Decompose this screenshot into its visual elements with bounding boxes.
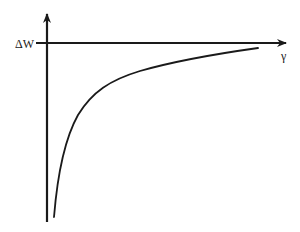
gamma-axis-label: γ bbox=[281, 50, 286, 62]
asymptotic-curve bbox=[54, 48, 258, 217]
delta-w-label: ΔW bbox=[15, 38, 34, 50]
diagram-figure bbox=[0, 0, 300, 232]
